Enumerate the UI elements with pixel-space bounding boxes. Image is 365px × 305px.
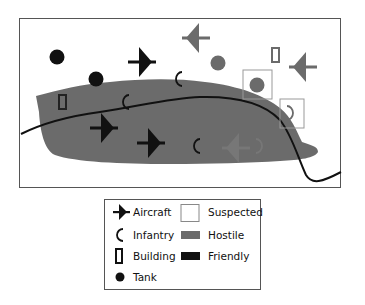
aircraft-icon — [111, 204, 133, 220]
suspected-swatch — [180, 204, 208, 220]
legend-label: Building — [133, 250, 176, 262]
legend-item-suspected: Suspected — [180, 204, 263, 220]
legend-label: Hostile — [208, 229, 244, 241]
legend: Aircraft Infantry Building Tank Suspecte… — [104, 199, 261, 290]
legend-label: Friendly — [208, 250, 249, 262]
tank-icon — [211, 56, 226, 71]
tank-icon — [111, 269, 133, 285]
legend-item-aircraft: Aircraft — [111, 204, 171, 220]
infantry-icon — [111, 227, 133, 243]
map-diagram — [0, 0, 365, 200]
friendly-swatch — [180, 248, 208, 264]
legend-label: Tank — [133, 271, 157, 283]
hostile-swatch — [180, 227, 208, 243]
legend-label: Suspected — [208, 206, 263, 218]
tank-icon — [50, 50, 65, 65]
building-icon — [111, 248, 133, 264]
legend-label: Aircraft — [133, 206, 171, 218]
legend-item-tank: Tank — [111, 269, 157, 285]
legend-label: Infantry — [133, 229, 174, 241]
legend-item-friendly: Friendly — [180, 248, 249, 264]
legend-item-hostile: Hostile — [180, 227, 244, 243]
legend-item-infantry: Infantry — [111, 227, 174, 243]
legend-item-building: Building — [111, 248, 176, 264]
tank-icon — [250, 78, 265, 93]
tank-icon — [89, 72, 104, 87]
